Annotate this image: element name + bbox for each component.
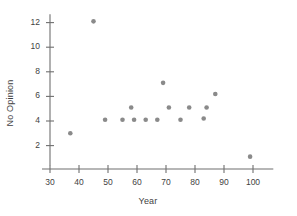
y-tick-label: 10 <box>22 41 40 51</box>
x-tick-label: 40 <box>67 177 91 187</box>
y-tick-label: 2 <box>22 140 40 150</box>
data-point <box>68 131 73 136</box>
x-tick-label: 90 <box>212 177 236 187</box>
data-point <box>132 117 137 122</box>
data-point <box>91 19 96 24</box>
y-tick-label: 12 <box>22 17 40 27</box>
data-points <box>68 19 252 159</box>
data-point <box>143 117 148 122</box>
data-point <box>161 81 166 86</box>
scatter-chart: No Opinion Year 24681012 304050607080901… <box>0 0 297 216</box>
data-point <box>201 116 206 121</box>
data-point <box>178 117 183 122</box>
x-tick-label: 100 <box>241 177 265 187</box>
y-tick-label: 6 <box>22 90 40 100</box>
data-point <box>155 117 160 122</box>
x-tick-label: 70 <box>154 177 178 187</box>
data-point <box>120 117 125 122</box>
axes <box>42 14 273 173</box>
data-point <box>248 154 253 159</box>
y-tick-label: 4 <box>22 115 40 125</box>
x-tick-label: 80 <box>183 177 207 187</box>
x-tick-label: 60 <box>125 177 149 187</box>
y-tick-label: 8 <box>22 66 40 76</box>
data-point <box>103 117 108 122</box>
data-point <box>187 105 192 110</box>
data-point <box>167 105 172 110</box>
data-point <box>129 105 134 110</box>
x-tick-label: 30 <box>38 177 62 187</box>
data-point <box>213 92 218 97</box>
x-tick-label: 50 <box>96 177 120 187</box>
data-point <box>204 105 209 110</box>
